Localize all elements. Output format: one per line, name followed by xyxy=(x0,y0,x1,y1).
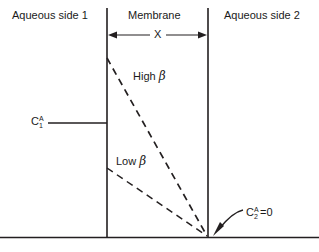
concentration-right-leader-arrow xyxy=(213,210,243,236)
high-beta-label: High β xyxy=(133,70,166,82)
membrane-concentration-diagram: Aqueous side 1 Membrane Aqueous side 2 X… xyxy=(0,0,319,252)
conc-left-subscript: 1 xyxy=(39,122,43,129)
conc-right-base: C xyxy=(246,206,254,218)
conc-left-indices: A1 xyxy=(39,117,45,128)
conc-left-base: C xyxy=(31,115,39,127)
region-label-middle: Membrane xyxy=(128,10,181,21)
conc-right-equals: =0 xyxy=(260,206,273,218)
low-beta-label: Low β xyxy=(116,155,146,167)
conc-right-indices: A2 xyxy=(254,208,260,219)
high-beta-profile-line xyxy=(107,58,207,236)
region-label-right: Aqueous side 2 xyxy=(224,10,300,21)
region-label-left: Aqueous side 1 xyxy=(12,10,88,21)
conc-left-superscript: A xyxy=(39,115,44,122)
conc-right-subscript: 2 xyxy=(254,213,258,220)
beta-symbol-high: β xyxy=(159,69,166,83)
conc-right-superscript: A xyxy=(254,206,259,213)
concentration-label-left: CA1 xyxy=(31,116,45,128)
low-beta-label-text: Low xyxy=(116,155,136,167)
thickness-dimension-label: X xyxy=(154,29,161,40)
arrowhead-left xyxy=(108,32,117,39)
concentration-label-right: CA2=0 xyxy=(246,207,273,219)
beta-symbol-low: β xyxy=(139,154,146,168)
arrowhead-right xyxy=(198,32,207,39)
low-beta-profile-line xyxy=(107,168,207,236)
high-beta-label-text: High xyxy=(133,70,156,82)
